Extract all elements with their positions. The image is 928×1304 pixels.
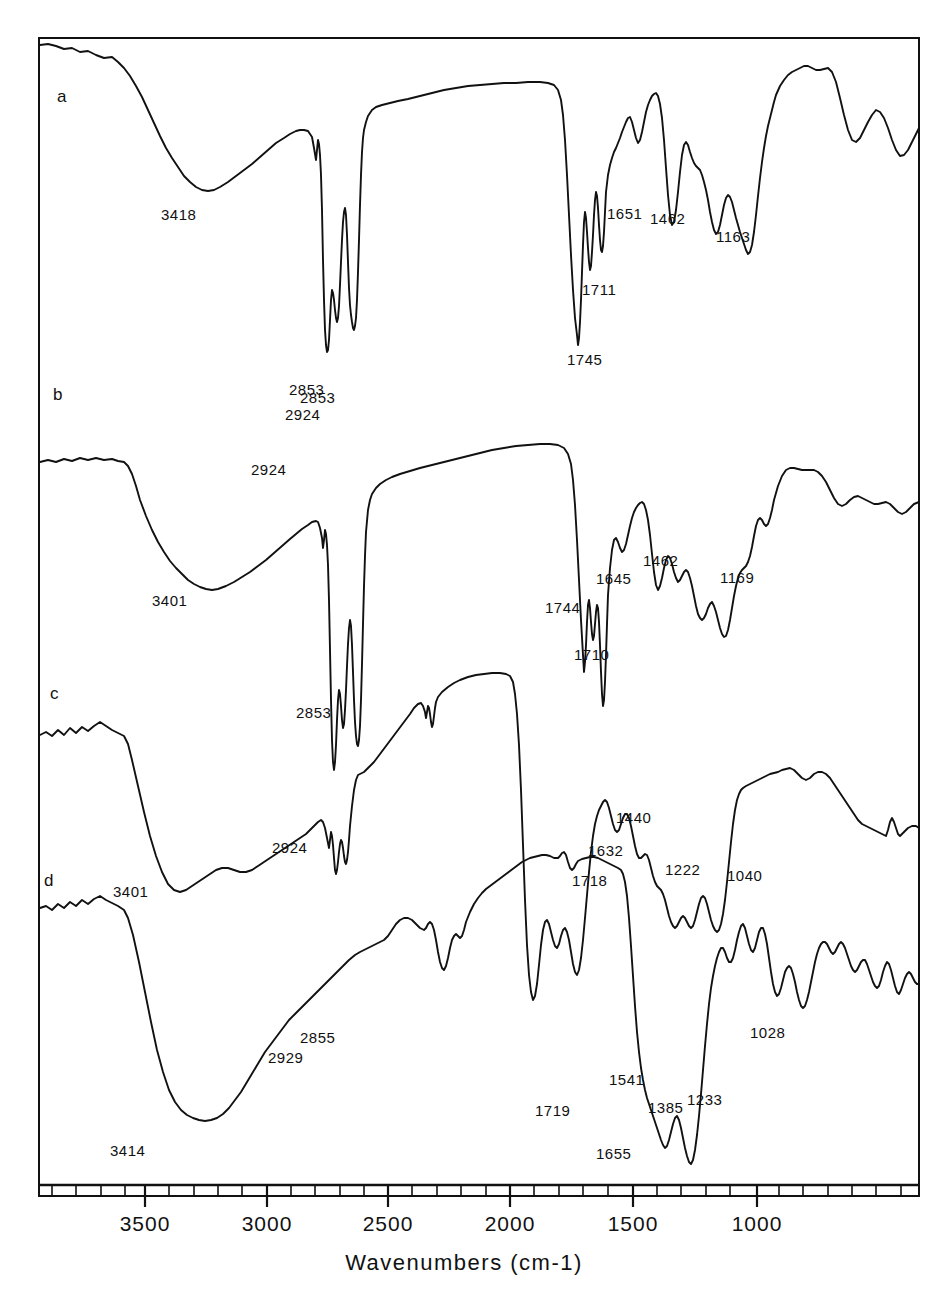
peak-label-b-1462: 1462 (643, 553, 678, 568)
peak-label-b-2853: 2853 (300, 390, 335, 405)
peak-label-b-2924: 2924 (251, 462, 286, 477)
x-tick-label-2000: 2000 (485, 1213, 536, 1234)
peak-label-a-3418: 3418 (161, 207, 196, 222)
x-axis-ticks (52, 1185, 901, 1207)
x-tick-label-3000: 3000 (242, 1213, 293, 1234)
peak-label-b-1710: 1710 (574, 647, 609, 662)
peak-label-d-1028: 1028 (750, 1025, 785, 1040)
x-axis-title: Wavenumbers (cm-1) (0, 1250, 928, 1276)
peak-label-d-1541: 1541 (609, 1072, 644, 1087)
x-tick-label-2500: 2500 (363, 1213, 414, 1234)
trace-letter-c: c (50, 685, 59, 702)
peak-label-a-1711: 1711 (582, 282, 616, 297)
spectra-canvas (0, 0, 928, 1304)
peak-label-c-3401: 3401 (113, 884, 148, 899)
peak-label-d-1655: 1655 (596, 1146, 631, 1161)
peak-label-a-1651: 1651 (607, 206, 642, 221)
x-tick-label-1500: 1500 (608, 1213, 659, 1234)
peak-label-c-1440: 1440 (616, 810, 651, 825)
peak-label-a-1462: 1462 (650, 211, 685, 226)
x-tick-label-1000: 1000 (732, 1213, 783, 1234)
trace-letter-b: b (53, 386, 62, 403)
spectrum-trace-d (40, 852, 919, 1164)
peak-label-d-1385: 1385 (648, 1100, 683, 1115)
peak-label-a-1163: 1163 (716, 229, 750, 244)
peak-label-d-3414: 3414 (110, 1143, 145, 1158)
peak-label-b-3401: 3401 (152, 593, 187, 608)
ftir-figure: a b c d 3418 2924 2853 1745 1711 1651 14… (0, 0, 928, 1304)
x-tick-label-3500: 3500 (120, 1213, 171, 1234)
peak-label-d-1719: 1719 (535, 1103, 570, 1118)
peak-label-c-2853: 2853 (296, 705, 331, 720)
spectrum-trace-c (40, 673, 919, 1000)
peak-label-d-1233: 1233 (687, 1092, 722, 1107)
peak-label-d-2855: 2855 (300, 1030, 335, 1045)
peak-label-b-1744: 1744 (545, 600, 580, 615)
peak-label-b-1645: 1645 (596, 571, 631, 586)
spectrum-trace-a (40, 44, 919, 352)
peak-label-c-1718: 1718 (572, 873, 607, 888)
peak-label-c-1040: 1040 (727, 868, 762, 883)
peak-label-c-1632: 1632 (588, 843, 623, 858)
trace-letter-a: a (57, 88, 66, 105)
peak-label-c-2924: 2924 (272, 840, 307, 855)
peak-label-a-1745: 1745 (567, 352, 602, 367)
peak-label-c-1222: 1222 (665, 862, 700, 877)
peak-label-a-2924: 2924 (285, 407, 320, 422)
peak-label-b-1169: 1169 (720, 570, 754, 585)
peak-label-d-2929: 2929 (268, 1050, 303, 1065)
trace-letter-d: d (44, 872, 53, 889)
